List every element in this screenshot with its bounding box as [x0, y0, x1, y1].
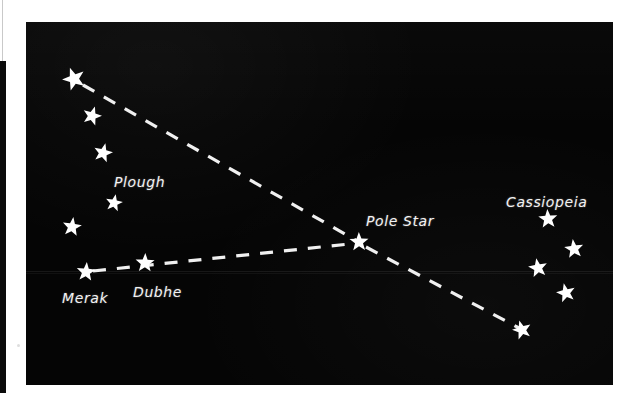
star-line-end — [512, 320, 530, 339]
star-dubhe — [136, 253, 155, 271]
star-plough-alkaid — [62, 68, 84, 91]
pointer-line-pole-star-to-cassiopeia — [366, 247, 521, 329]
pole-star-label: Pole Star — [366, 213, 434, 229]
star-cassiopeia-2 — [564, 239, 583, 258]
page-edge-hairline — [2, 0, 3, 62]
star-merak — [77, 262, 96, 281]
star-cassiopeia-3 — [528, 258, 547, 277]
page-edge-black-bar — [0, 61, 6, 393]
pointer-line-plough-to-pole-star — [83, 85, 359, 242]
star-chart-figure: PloughMerakDubhePole StarCassiopeia — [0, 0, 640, 407]
star-plough-mizar — [84, 106, 102, 125]
night-sky-plate: PloughMerakDubhePole StarCassiopeia — [26, 22, 613, 385]
star-cassiopeia-1 — [538, 209, 557, 227]
cassiopeia-label: Cassiopeia — [506, 194, 587, 210]
merak-label: Merak — [62, 290, 108, 306]
pointer-line-merak-dubhe-to-pole-star — [93, 243, 359, 271]
star-cassiopeia-4 — [556, 283, 575, 302]
page-speck — [17, 344, 20, 347]
star-pole-star — [349, 232, 368, 250]
star-plough-megrez — [106, 194, 123, 211]
star-plough-phecda — [63, 217, 82, 236]
star-plough-alioth — [95, 143, 113, 162]
plough-label: Plough — [114, 174, 165, 190]
dubhe-label: Dubhe — [133, 284, 182, 300]
